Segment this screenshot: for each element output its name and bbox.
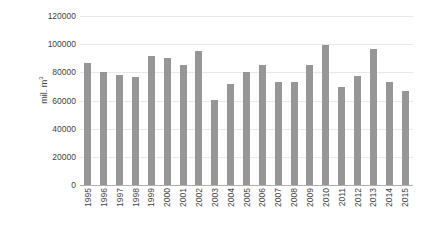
x-axis-tick-slot: 2008: [286, 188, 302, 226]
x-axis-tick-label: 2006: [257, 188, 267, 207]
x-axis-tick-slot: 2006: [254, 188, 270, 226]
x-axis-tick-label: 1995: [83, 188, 93, 207]
x-axis-tick-slot: 2011: [334, 188, 350, 226]
y-axis-tick-label: 80000: [24, 68, 76, 77]
x-axis-tick-slot: 2000: [159, 188, 175, 226]
bar[interactable]: [132, 77, 139, 185]
bar[interactable]: [354, 76, 361, 185]
x-axis-tick-slot: 1999: [143, 188, 159, 226]
x-axis-tick-label: 2001: [178, 188, 188, 207]
x-axis-tick-label: 1999: [146, 188, 156, 207]
x-axis-tick-slot: 2012: [350, 188, 366, 226]
bar[interactable]: [259, 65, 266, 185]
x-axis-tick-slot: 2015: [397, 188, 413, 226]
bar-slot: [381, 16, 397, 185]
y-axis-tick-label: 120000: [24, 12, 76, 21]
bar[interactable]: [386, 82, 393, 186]
bar-slot: [191, 16, 207, 185]
x-axis-tick-label: 2008: [289, 188, 299, 207]
bar[interactable]: [322, 45, 329, 185]
y-axis-tick-label: 0: [24, 181, 76, 190]
bar[interactable]: [306, 65, 313, 185]
y-axis-tick-label: 40000: [24, 124, 76, 133]
x-axis-tick-slot: 2002: [191, 188, 207, 226]
bar-slot: [334, 16, 350, 185]
x-axis-tick-slot: 2004: [223, 188, 239, 226]
bar-slot: [159, 16, 175, 185]
x-axis-tick-slot: 2003: [207, 188, 223, 226]
x-axis-tick-label: 2011: [337, 188, 347, 206]
y-axis-tick-labels: 020000400006000080000100000120000: [24, 0, 76, 226]
x-axis-tick-slot: 2009: [302, 188, 318, 226]
bar-slot: [254, 16, 270, 185]
bar[interactable]: [148, 56, 155, 185]
bar[interactable]: [338, 87, 345, 185]
x-axis-tick-label: 2012: [353, 188, 363, 207]
bars-layer: [80, 16, 413, 185]
x-axis-line: [80, 185, 413, 186]
bar-slot: [223, 16, 239, 185]
bar-slot: [80, 16, 96, 185]
bar[interactable]: [211, 100, 218, 185]
x-axis-tick-slot: 2010: [318, 188, 334, 226]
bar[interactable]: [291, 82, 298, 185]
y-axis-tick-label: 20000: [24, 152, 76, 161]
x-axis-tick-label: 2007: [273, 188, 283, 207]
bar-slot: [207, 16, 223, 185]
bar-slot: [96, 16, 112, 185]
bar-slot: [239, 16, 255, 185]
bar-slot: [350, 16, 366, 185]
plot-area: [80, 16, 413, 186]
bar-slot: [128, 16, 144, 185]
x-axis-tick-slot: 2014: [381, 188, 397, 226]
x-axis-tick-label: 2013: [368, 188, 378, 207]
bar[interactable]: [275, 82, 282, 186]
bar[interactable]: [370, 49, 377, 185]
x-axis-tick-label: 2010: [321, 188, 331, 207]
x-axis-tick-label: 2004: [226, 188, 236, 207]
x-axis-tick-labels: 1995199619971998199920002001200220032004…: [80, 188, 413, 226]
x-axis-tick-slot: 1995: [80, 188, 96, 226]
bar-slot: [143, 16, 159, 185]
x-axis-tick-slot: 2005: [239, 188, 255, 226]
x-axis-tick-label: 2002: [194, 188, 204, 207]
x-axis-tick-slot: 2007: [270, 188, 286, 226]
y-axis-tick-label: 60000: [24, 96, 76, 105]
bar[interactable]: [227, 84, 234, 185]
x-axis-tick-label: 1996: [99, 188, 109, 207]
y-axis-tick-label: 100000: [24, 40, 76, 49]
x-axis-tick-label: 2015: [400, 188, 410, 207]
bar[interactable]: [116, 75, 123, 185]
x-axis-tick-slot: 1997: [112, 188, 128, 226]
bar-slot: [270, 16, 286, 185]
x-axis-tick-slot: 2001: [175, 188, 191, 226]
bar-slot: [365, 16, 381, 185]
bar-chart: mil. m3 02000040000600008000010000012000…: [0, 0, 422, 226]
x-axis-tick-label: 2005: [242, 188, 252, 207]
bar-slot: [286, 16, 302, 185]
bar[interactable]: [164, 58, 171, 185]
bar-slot: [318, 16, 334, 185]
bar[interactable]: [195, 51, 202, 185]
x-axis-tick-label: 2000: [162, 188, 172, 207]
x-axis-tick-label: 2014: [384, 188, 394, 207]
bar[interactable]: [402, 91, 409, 185]
x-axis-tick-label: 2003: [210, 188, 220, 207]
bar-slot: [397, 16, 413, 185]
bar[interactable]: [243, 72, 250, 185]
x-axis-tick-slot: 2013: [365, 188, 381, 226]
x-axis-tick-label: 1997: [115, 188, 125, 207]
x-axis-tick-label: 1998: [131, 188, 141, 207]
bar-slot: [302, 16, 318, 185]
bar[interactable]: [100, 72, 107, 185]
bar[interactable]: [84, 63, 91, 185]
x-axis-tick-slot: 1998: [128, 188, 144, 226]
bar-slot: [112, 16, 128, 185]
bar-slot: [175, 16, 191, 185]
bar[interactable]: [180, 65, 187, 185]
x-axis-tick-slot: 1996: [96, 188, 112, 226]
x-axis-tick-label: 2009: [305, 188, 315, 207]
